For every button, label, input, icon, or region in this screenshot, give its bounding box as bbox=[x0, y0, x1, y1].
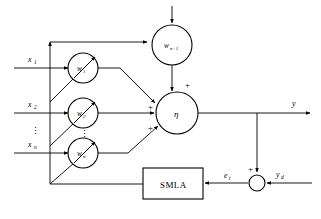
weight-node-wn: w n bbox=[68, 138, 98, 168]
weight-node-w2-label: w bbox=[77, 110, 82, 118]
summation-sign-upper: + bbox=[148, 102, 153, 112]
weight-node-w2: w 2 bbox=[68, 98, 98, 128]
wire-w1-to-sum bbox=[98, 68, 155, 103]
desired-output-label: y bbox=[275, 170, 280, 179]
input-x2-label: x bbox=[27, 100, 32, 109]
error-signal-label: e bbox=[224, 171, 228, 180]
smla-block-label: SMLA bbox=[160, 180, 187, 190]
summation-node: η bbox=[156, 92, 198, 134]
input-xn-label: x bbox=[27, 140, 32, 149]
bias-weight-node-label: w bbox=[164, 42, 169, 50]
weight-node-wn-label: w bbox=[77, 150, 82, 158]
weight-node-w1-subscript: 1 bbox=[83, 69, 86, 74]
weight-node-w1: w 1 bbox=[68, 53, 98, 83]
bus-branch-to-w1 bbox=[50, 78, 74, 102]
input-x1-label: x bbox=[27, 55, 32, 64]
bias-weight-node: w n+1 bbox=[152, 6, 192, 91]
input-x2-subscript: 2 bbox=[34, 104, 37, 110]
output-wire bbox=[198, 113, 310, 172]
bus-branch-to-wn bbox=[50, 163, 74, 184]
error-junction-plus-sign: + bbox=[248, 164, 253, 174]
diagram-svg: w 1 w 2 w n w n+1 η bbox=[0, 0, 321, 219]
input-ellipsis: ⋮ bbox=[31, 126, 40, 136]
input-x1-subscript: 1 bbox=[34, 59, 37, 65]
output-y-label: y bbox=[291, 99, 296, 108]
error-summing-junction bbox=[249, 175, 265, 191]
error-signal-subscript: t bbox=[229, 175, 231, 181]
desired-output-subscript: d bbox=[281, 174, 284, 180]
bus-branch-to-w2 bbox=[50, 123, 74, 146]
weight-ellipsis: ⋮ bbox=[80, 129, 89, 139]
weight-node-w1-label: w bbox=[77, 65, 82, 73]
summation-sign-bias: + bbox=[185, 80, 190, 90]
bias-weight-node-subscript: n+1 bbox=[170, 46, 178, 51]
input-xn-subscript: n bbox=[34, 144, 37, 150]
summation-node-label: η bbox=[174, 109, 179, 119]
diagram-canvas: w 1 w 2 w n w n+1 η bbox=[0, 0, 321, 219]
smla-block: SMLA bbox=[143, 168, 203, 199]
